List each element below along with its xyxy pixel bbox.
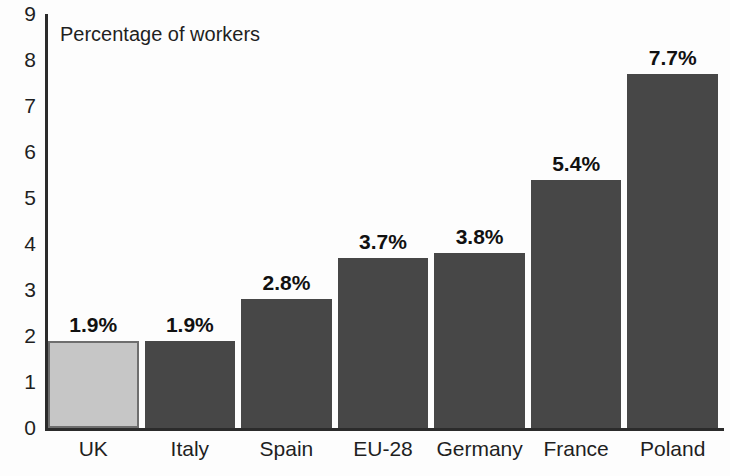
plot-area: 1.9%1.9%2.8%3.7%3.8%5.4%7.7% <box>48 14 724 428</box>
bar-group: 1.9% <box>145 14 236 428</box>
y-axis-tick-5: 5 <box>10 187 36 208</box>
x-axis-category-labels: UKItalySpainEU-28GermanyFrancePoland <box>48 437 724 469</box>
bar-group: 3.8% <box>434 14 525 428</box>
bar-value-label: 2.8% <box>241 272 332 293</box>
y-axis-tick-labels: 9876543210 <box>0 0 36 476</box>
y-axis-tick-0: 0 <box>10 417 36 438</box>
bar-value-label: 3.7% <box>338 231 429 252</box>
y-axis-tick-7: 7 <box>10 95 36 116</box>
x-axis-label-germany: Germany <box>434 437 525 461</box>
x-axis-label-poland: Poland <box>627 437 718 461</box>
bar-group: 5.4% <box>531 14 622 428</box>
bar-group: 1.9% <box>48 14 139 428</box>
bar-value-label: 3.8% <box>434 226 525 247</box>
x-axis-label-uk: UK <box>48 437 139 461</box>
y-axis-tick-9: 9 <box>10 3 36 24</box>
x-axis-label-spain: Spain <box>241 437 332 461</box>
bar-germany <box>434 253 525 428</box>
bar-group: 2.8% <box>241 14 332 428</box>
bar-uk <box>48 341 139 428</box>
y-axis-tick-2: 2 <box>10 325 36 346</box>
bar-group: 7.7% <box>627 14 718 428</box>
bar-poland <box>627 74 718 428</box>
y-axis-tick-6: 6 <box>10 141 36 162</box>
bar-value-label: 1.9% <box>48 314 139 335</box>
bar-value-label: 1.9% <box>145 314 236 335</box>
y-axis-tick-3: 3 <box>10 279 36 300</box>
x-axis-label-italy: Italy <box>145 437 236 461</box>
bar-value-label: 7.7% <box>627 47 718 68</box>
x-axis-label-eu-28: EU-28 <box>338 437 429 461</box>
x-axis-label-france: France <box>531 437 622 461</box>
y-axis-tick-1: 1 <box>10 371 36 392</box>
y-axis-tick-8: 8 <box>10 49 36 70</box>
bar-france <box>531 180 622 428</box>
bar-eu-28 <box>338 258 429 428</box>
bar-italy <box>145 341 236 428</box>
bar-group: 3.7% <box>338 14 429 428</box>
y-axis-tick-4: 4 <box>10 233 36 254</box>
x-axis-line <box>45 428 724 431</box>
bar-value-label: 5.4% <box>531 153 622 174</box>
bar-chart: Percentage of workers 9876543210 1.9%1.9… <box>0 0 730 476</box>
bar-spain <box>241 299 332 428</box>
